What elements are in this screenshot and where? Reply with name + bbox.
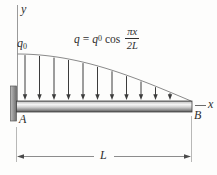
load-equation: q = q0 cos πx 2L — [74, 26, 139, 51]
equation-lhs: q — [74, 33, 80, 45]
fixed-support — [11, 86, 17, 121]
load-arrows — [23, 55, 172, 100]
load-arrow-head — [37, 94, 41, 100]
dimension-arrowhead-left — [17, 154, 24, 158]
equation-coefficient-subscript: 0 — [98, 34, 102, 43]
point-a-label: A — [19, 113, 26, 125]
load-arrow-head — [153, 94, 157, 100]
point-b-label: B — [194, 109, 201, 121]
load-arrow-head — [110, 94, 114, 100]
equation-equals: = — [83, 33, 90, 45]
fraction-numerator: πx — [125, 26, 139, 39]
load-arrow-head — [124, 94, 128, 100]
load-arrow-head — [139, 94, 143, 100]
fraction-denominator: 2L — [127, 39, 138, 51]
peak-load-label: q0 — [17, 37, 27, 51]
load-arrow-head — [168, 94, 172, 100]
length-label: L — [100, 149, 107, 161]
peak-load-subscript: 0 — [23, 42, 27, 51]
load-arrow-head — [23, 94, 27, 100]
beam-load-diagram: y q0 q = q0 cos πx 2L A B x L — [0, 0, 217, 175]
y-axis-label: y — [21, 3, 26, 15]
x-axis-label: x — [208, 98, 213, 110]
dimension-arrowhead-right — [184, 154, 191, 158]
load-arrow-head — [81, 94, 85, 100]
beam — [17, 101, 193, 112]
equation-function: cos — [105, 33, 120, 45]
load-arrow-head — [66, 94, 70, 100]
load-arrow-head — [95, 94, 99, 100]
equation-fraction: πx 2L — [125, 26, 139, 51]
load-arrow-head — [52, 94, 56, 100]
load-curve — [17, 54, 191, 101]
